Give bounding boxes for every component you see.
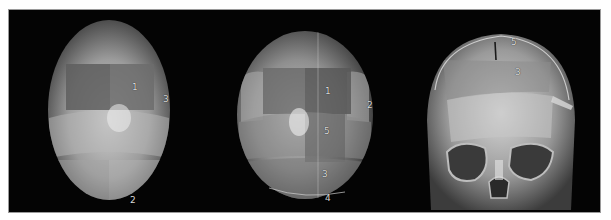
segment-label: 2 — [367, 101, 373, 110]
segment-region — [263, 68, 305, 114]
nasal-cavity — [489, 177, 509, 198]
segment-label: 1 — [325, 87, 331, 96]
skull-rendering-left — [9, 10, 205, 212]
segment-region — [305, 114, 345, 162]
skull-rendering-center — [205, 10, 401, 212]
panel-top-view-center: 1 2 5 3 4 — [205, 10, 401, 212]
segment-label: 5 — [511, 38, 517, 47]
orbit-left — [447, 144, 487, 181]
segment-region — [109, 160, 169, 205]
panel-top-view-left: 1 3 2 — [9, 10, 205, 212]
skull-rendering-right — [401, 10, 600, 212]
segment-region — [49, 160, 109, 205]
segment-region — [245, 158, 365, 200]
segment-label: 3 — [515, 68, 521, 77]
segment-label: 4 — [325, 194, 331, 203]
segment-region — [447, 93, 553, 142]
figure-panel-strip: 1 3 2 — [9, 10, 600, 212]
panel-frontal-view-right: 5 3 — [401, 10, 600, 212]
segment-label: 3 — [322, 170, 328, 179]
segment-region — [241, 72, 263, 122]
segment-label: 3 — [163, 95, 169, 104]
segment-label: 5 — [324, 127, 330, 136]
segment-region — [66, 64, 110, 110]
segment-label: 1 — [132, 83, 138, 92]
segment-label: 2 — [130, 196, 136, 205]
